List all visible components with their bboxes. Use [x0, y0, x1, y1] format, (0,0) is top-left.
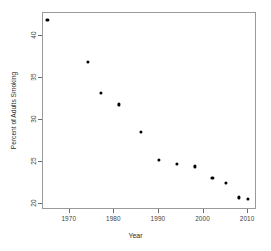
- y-axis-tick-label: 25: [30, 158, 37, 165]
- x-axis-tick: [203, 209, 204, 213]
- x-axis-tick: [247, 209, 248, 213]
- y-axis-tick-label: 35: [30, 74, 37, 81]
- data-point: [224, 182, 227, 185]
- y-axis-tick: [38, 161, 42, 162]
- x-axis-tick: [158, 209, 159, 213]
- y-axis-tick-label: 40: [30, 32, 37, 39]
- data-point-layer: [43, 13, 255, 208]
- x-axis-tick: [113, 209, 114, 213]
- y-axis-title-label: Percent of Adults Smoking: [11, 72, 18, 149]
- x-axis-tick: [69, 209, 70, 213]
- data-point: [175, 162, 178, 165]
- x-axis-title: Year: [0, 232, 271, 239]
- data-point: [157, 158, 160, 161]
- y-axis-title: Percent of Adults Smoking: [8, 0, 20, 221]
- y-axis-tick: [38, 203, 42, 204]
- data-point: [46, 18, 49, 21]
- data-point: [117, 103, 120, 106]
- scatter-plot-figure: Year Percent of Adults Smoking 197019801…: [0, 0, 271, 251]
- data-point: [246, 198, 249, 201]
- y-axis-tick-label: 20: [30, 199, 37, 206]
- plot-panel: [42, 12, 256, 209]
- data-point: [139, 130, 142, 133]
- y-axis-tick: [38, 77, 42, 78]
- y-axis-tick: [38, 35, 42, 36]
- data-point: [193, 165, 196, 168]
- x-axis-tick-label: 1970: [61, 215, 76, 222]
- data-point: [86, 60, 89, 63]
- x-axis-tick-label: 2010: [240, 215, 255, 222]
- x-axis-tick-label: 2000: [195, 215, 210, 222]
- x-axis-tick-label: 1990: [151, 215, 166, 222]
- data-point: [238, 196, 241, 199]
- y-axis-tick-label: 30: [30, 116, 37, 123]
- data-point: [211, 177, 214, 180]
- x-axis-tick-label: 1980: [106, 215, 121, 222]
- data-point: [99, 91, 102, 94]
- y-axis-tick: [38, 119, 42, 120]
